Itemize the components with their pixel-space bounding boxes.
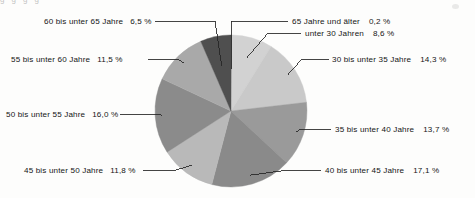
pie-label-name: 45 bis unter 50 Jahre	[24, 166, 103, 175]
pie-label-55-60: 55 bis unter 60 Jahre11,5 %	[11, 55, 123, 65]
pie-label-name: 55 bis unter 60 Jahre	[11, 55, 90, 64]
pie-label-30-35: 30 bis unter 35 Jahre14,3 %	[332, 55, 446, 65]
pie-label-35-40: 35 bis unter 40 Jahre13,7 %	[335, 125, 449, 135]
pie-label-percent: 11,8 %	[110, 166, 136, 175]
pie-label-name: unter 30 Jahren	[305, 29, 364, 38]
pie-label-name: 35 bis unter 40 Jahre	[335, 125, 414, 134]
pie-label-percent: 16,0 %	[92, 110, 118, 119]
scan-artifact	[452, 4, 459, 9]
pie-label-percent: 14,3 %	[420, 55, 446, 64]
pie-label-unter-30: unter 30 Jahren8,6 %	[305, 29, 394, 39]
pie-label-name: 60 bis unter 65 Jahre	[44, 17, 123, 26]
pie-label-percent: 13,7 %	[423, 125, 449, 134]
pie-label-percent: 6,5 %	[130, 17, 151, 26]
pie-label-name: 30 bis unter 35 Jahre	[332, 55, 411, 64]
pie-label-percent: 0,2 %	[369, 17, 390, 26]
pie-label-name: 50 bis unter 55 Jahre	[6, 110, 85, 119]
pie-label-45-50: 45 bis unter 50 Jahre11,8 %	[24, 166, 136, 176]
pie-label-percent: 11,5 %	[97, 55, 123, 64]
pie-label-60-65: 60 bis unter 65 Jahre6,5 %	[44, 17, 152, 27]
pie-label-percent: 8,6 %	[373, 29, 394, 38]
pie-label-name: 65 Jahre und älter	[292, 17, 360, 26]
pie-label-40-45: 40 bis unter 45 Jahre17,1 %	[325, 166, 439, 176]
pie-label-65-und-aelter: 65 Jahre und älter0,2 %	[292, 17, 390, 27]
pie-label-50-55: 50 bis unter 55 Jahre16,0 %	[6, 110, 118, 120]
pie-label-percent: 17,1 %	[413, 166, 439, 175]
pie-label-name: 40 bis unter 45 Jahre	[325, 166, 404, 175]
chart-canvas: g g g g 65 Jahre und älter0,2 % unter 30…	[0, 0, 475, 198]
